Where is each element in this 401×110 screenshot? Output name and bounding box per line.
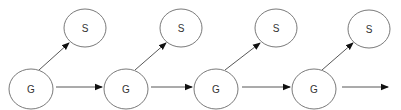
node-label: G bbox=[122, 84, 130, 95]
node-s2: S bbox=[160, 9, 202, 47]
state-diagram: G S G S G S G S bbox=[0, 0, 401, 110]
edge-g2-to-s2 bbox=[135, 43, 166, 70]
node-g3: G bbox=[194, 69, 238, 109]
node-s1: S bbox=[64, 9, 106, 47]
node-label: G bbox=[310, 84, 318, 95]
edge-g4-to-s4 bbox=[322, 43, 353, 70]
node-label: S bbox=[178, 23, 185, 34]
node-g1: G bbox=[9, 69, 53, 109]
node-label: G bbox=[27, 84, 35, 95]
node-label: S bbox=[82, 23, 89, 34]
node-s3: S bbox=[255, 9, 297, 47]
edge-g3-to-s3 bbox=[225, 43, 260, 70]
node-label: G bbox=[212, 84, 220, 95]
node-label: S bbox=[366, 24, 373, 35]
node-s4: S bbox=[348, 10, 390, 48]
node-label: S bbox=[273, 23, 280, 34]
node-g4: G bbox=[292, 69, 336, 109]
edge-g1-to-s1 bbox=[39, 43, 69, 70]
node-g2: G bbox=[104, 69, 148, 109]
